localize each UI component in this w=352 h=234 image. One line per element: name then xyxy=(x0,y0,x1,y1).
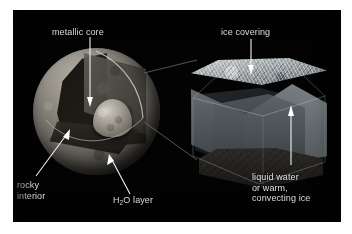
liquid-water-arrowhead xyxy=(288,105,294,116)
label-liquid-water: liquid water or warm, convecting ice xyxy=(252,172,310,204)
label-liquid-line1: liquid water xyxy=(252,172,299,182)
connector-line-top xyxy=(144,60,197,73)
label-h2o-post: O layer xyxy=(123,195,153,205)
diagram-panel: metallic core rocky interior H2O layer i… xyxy=(13,10,341,222)
label-liquid-line3: convecting ice xyxy=(252,193,310,203)
label-h2o-layer: H2O layer xyxy=(113,195,153,208)
label-h2o-pre: H xyxy=(113,195,120,205)
label-rocky-interior-line2: interior xyxy=(17,191,45,201)
connector-line-bottom xyxy=(144,122,197,160)
label-metallic-core: metallic core xyxy=(52,27,104,38)
h2o-layer-leader xyxy=(112,160,130,194)
ice-covering-arrowhead xyxy=(248,65,254,75)
label-rocky-interior: rocky interior xyxy=(17,180,45,201)
label-ice-covering: ice covering xyxy=(221,27,270,38)
label-rocky-interior-line1: rocky xyxy=(17,180,39,190)
rocky-interior-leader xyxy=(36,134,67,176)
figure-root: metallic core rocky interior H2O layer i… xyxy=(0,0,352,234)
h2o-layer-arrowhead xyxy=(107,154,114,165)
metallic-core-arrowhead xyxy=(87,97,93,107)
label-liquid-line2: or warm, xyxy=(252,183,288,193)
